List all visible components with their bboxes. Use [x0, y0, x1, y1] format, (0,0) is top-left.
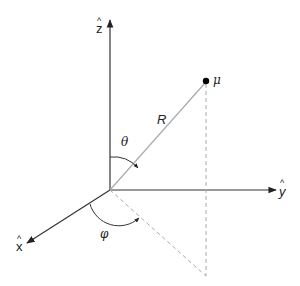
- point-label: μ: [213, 73, 221, 87]
- spherical-coordinate-diagram: ^ z ^ y ^ x μ R θ φ: [0, 0, 300, 286]
- phi-arc: [90, 204, 139, 226]
- z-axis-label: z: [96, 21, 103, 36]
- point-marker: [203, 78, 209, 84]
- radius-label: R: [157, 112, 166, 127]
- theta-label: θ: [121, 135, 129, 149]
- phi-label: φ: [100, 227, 109, 241]
- y-axis-label: y: [278, 184, 287, 199]
- x-axis-label: x: [16, 239, 23, 254]
- projection-azimuth: [110, 190, 206, 276]
